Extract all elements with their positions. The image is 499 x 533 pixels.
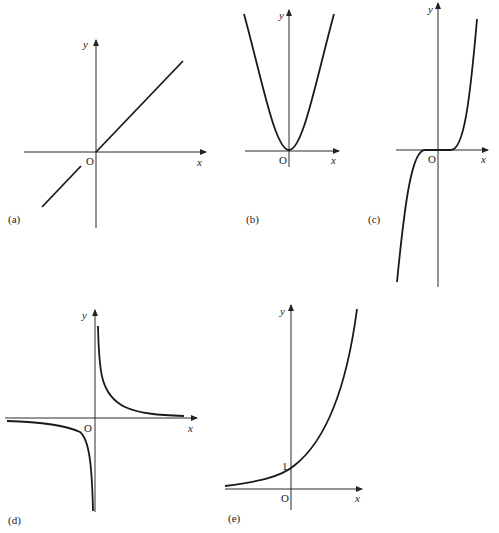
origin-label: O	[281, 492, 289, 504]
graph-e: y 1 O x (e)	[225, 305, 362, 525]
figure-label-c: (c)	[368, 213, 381, 226]
linear-curve-upper	[96, 61, 183, 152]
function-graphs: y O x (a) y O x (b) y O x (c) y O x (d)	[0, 0, 499, 533]
graph-b: y O x (b)	[244, 9, 339, 226]
x-axis-label: x	[480, 153, 486, 165]
graph-c: y O x (c)	[368, 3, 488, 287]
hyperbola-branch-negative	[7, 421, 93, 511]
x-axis-label: x	[354, 492, 360, 504]
origin-label: O	[86, 155, 94, 167]
x-axis-label: x	[187, 422, 193, 434]
y-axis-label: y	[427, 3, 433, 15]
x-axis-label: x	[196, 156, 202, 168]
figure-label-e: (e)	[228, 512, 241, 525]
y-axis-label: y	[278, 9, 284, 21]
origin-label: O	[279, 154, 287, 166]
hyperbola-branch-positive	[98, 326, 184, 416]
intercept-label: 1	[282, 460, 288, 472]
figure-label-b: (b)	[246, 213, 259, 226]
figure-label-a: (a)	[8, 213, 21, 226]
x-axis-label: x	[330, 154, 336, 166]
graph-a: y O x (a)	[8, 38, 206, 228]
y-axis-label: y	[279, 305, 285, 317]
linear-curve-lower	[42, 166, 81, 207]
y-axis-label: y	[81, 309, 87, 321]
origin-label: O	[84, 422, 92, 434]
figure-label-d: (d)	[8, 514, 21, 527]
graph-d: y O x (d)	[5, 309, 197, 527]
origin-label: O	[428, 153, 436, 165]
y-axis-label: y	[82, 38, 88, 50]
